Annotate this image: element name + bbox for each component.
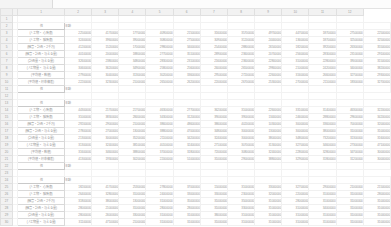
row-header[interactable]: 28 [1, 205, 13, 212]
cell-empty[interactable] [336, 23, 363, 30]
data-cell[interactable]: 28800000 [227, 44, 254, 51]
data-cell[interactable]: 22200000 [65, 79, 92, 86]
row-label[interactable]: (平均値・ 標準偏差) [18, 79, 65, 86]
cell-empty[interactable] [65, 93, 92, 100]
data-cell[interactable]: 13000000 [119, 128, 146, 135]
data-cell[interactable]: 21000000 [119, 219, 146, 226]
data-cell[interactable]: 31000000 [336, 219, 363, 226]
row-header[interactable]: 23 [1, 170, 13, 177]
data-cell[interactable]: 29800000 [255, 65, 282, 72]
data-cell[interactable]: 17000000 [119, 44, 146, 51]
data-cell[interactable]: 31300000 [255, 142, 282, 149]
data-cell[interactable]: 29300000 [363, 72, 390, 79]
cell-empty[interactable] [18, 16, 65, 23]
cell-empty[interactable] [255, 163, 282, 170]
data-cell[interactable]: 32400000 [65, 37, 92, 44]
data-cell[interactable]: 23100000 [173, 58, 200, 65]
data-cell[interactable]: 38800000 [146, 128, 173, 135]
row-label[interactable]: (平均値・ 数値) [18, 226, 65, 227]
cell-empty[interactable] [227, 163, 254, 170]
data-cell[interactable]: 34800000 [119, 58, 146, 65]
data-cell[interactable]: 28000000 [173, 205, 200, 212]
data-cell[interactable]: 38000000 [309, 128, 336, 135]
cell-empty[interactable] [227, 93, 254, 100]
row-label[interactable]: (人工物量・ 与える量) [18, 219, 65, 226]
data-cell[interactable]: 27500000 [173, 37, 200, 44]
cell-empty[interactable] [336, 86, 363, 93]
data-cell[interactable]: 31300000 [65, 142, 92, 149]
cell-empty[interactable] [309, 23, 336, 30]
row-header[interactable]: 11 [1, 86, 13, 93]
data-cell[interactable]: 29500000 [200, 72, 227, 79]
formula-bar-input[interactable] [53, 0, 391, 8]
data-cell[interactable]: 23100000 [336, 51, 363, 58]
cell-empty[interactable] [200, 23, 227, 30]
data-cell[interactable]: 35100000 [173, 51, 200, 58]
data-cell[interactable]: 31000000 [363, 198, 390, 205]
cell-empty[interactable] [227, 23, 254, 30]
data-cell[interactable]: 31400000 [309, 107, 336, 114]
cell-empty[interactable] [119, 100, 146, 107]
cell-empty[interactable] [173, 177, 200, 184]
data-cell[interactable]: 34000000 [336, 65, 363, 72]
data-cell[interactable]: 18700000 [309, 37, 336, 44]
row-label[interactable]: (人工物・ 脳疾患) [18, 114, 65, 121]
cell-empty[interactable] [65, 16, 92, 23]
data-cell[interactable]: 32400000 [200, 135, 227, 142]
cell-empty[interactable] [336, 177, 363, 184]
data-cell[interactable]: 29000000 [309, 184, 336, 191]
data-cell[interactable]: 29000000 [227, 156, 254, 163]
data-cell[interactable]: 38200000 [363, 65, 390, 72]
data-cell[interactable]: 31000000 [255, 219, 282, 226]
cell-empty[interactable] [282, 170, 309, 177]
data-cell[interactable]: 32000000 [255, 191, 282, 198]
data-cell[interactable]: 31000000 [282, 212, 309, 219]
data-cell[interactable]: 26200000 [173, 79, 200, 86]
data-cell[interactable]: 38600000 [200, 121, 227, 128]
data-cell[interactable]: 41700000 [92, 30, 119, 37]
row-header[interactable]: 5 [1, 44, 13, 51]
cell-empty[interactable] [173, 163, 200, 170]
cell-empty[interactable] [282, 23, 309, 30]
data-cell[interactable]: 31600000 [200, 30, 227, 37]
data-cell[interactable]: 31000000 [309, 212, 336, 219]
data-cell[interactable]: 22000000 [282, 191, 309, 198]
data-cell[interactable]: 24400000 [255, 37, 282, 44]
data-cell[interactable]: 31200000 [336, 156, 363, 163]
cell-empty[interactable] [92, 23, 119, 30]
row-label[interactable]: (計画量・ 与える量) [18, 58, 65, 65]
cell-empty[interactable] [146, 16, 173, 23]
data-cell[interactable]: 40200000 [227, 121, 254, 128]
data-cell[interactable]: 35200000 [119, 135, 146, 142]
data-cell[interactable]: 32700000 [282, 142, 309, 149]
data-cell[interactable]: 32600000 [65, 58, 92, 65]
data-cell[interactable]: 38000000 [92, 198, 119, 205]
data-cell[interactable]: 35700000 [227, 30, 254, 37]
data-cell[interactable]: 31000000 [363, 205, 390, 212]
cell-empty[interactable] [227, 16, 254, 23]
data-cell[interactable]: 21100000 [146, 135, 173, 142]
data-cell[interactable]: 21300000 [65, 135, 92, 142]
row-label[interactable]: (人工物・ 心疾患) [18, 30, 65, 37]
data-cell[interactable]: 25600000 [282, 51, 309, 58]
data-cell[interactable]: 27100000 [200, 142, 227, 149]
data-cell[interactable]: 31000000 [336, 128, 363, 135]
data-cell[interactable]: 34000000 [173, 44, 200, 51]
row-label[interactable]: (人工物・ 脳疾患) [18, 37, 65, 44]
cell-empty[interactable] [255, 86, 282, 93]
data-cell[interactable]: 31000000 [282, 219, 309, 226]
row-header[interactable]: 21 [1, 156, 13, 163]
data-cell[interactable]: 26500000 [255, 44, 282, 51]
cell-empty[interactable] [200, 170, 227, 177]
data-cell[interactable]: 47100000 [92, 219, 119, 226]
data-cell[interactable]: 31000000 [309, 191, 336, 198]
cell-empty[interactable] [173, 16, 200, 23]
data-cell[interactable]: 30000000 [363, 149, 390, 156]
cell-empty[interactable] [363, 177, 390, 184]
data-cell[interactable]: 25400000 [200, 44, 227, 51]
data-cell[interactable]: 28000000 [65, 205, 92, 212]
data-cell[interactable]: 33000000 [200, 191, 227, 198]
row-header[interactable]: 16 [1, 121, 13, 128]
block-footer[interactable]: 性 [18, 86, 65, 93]
data-cell[interactable]: 34600000 [92, 149, 119, 156]
